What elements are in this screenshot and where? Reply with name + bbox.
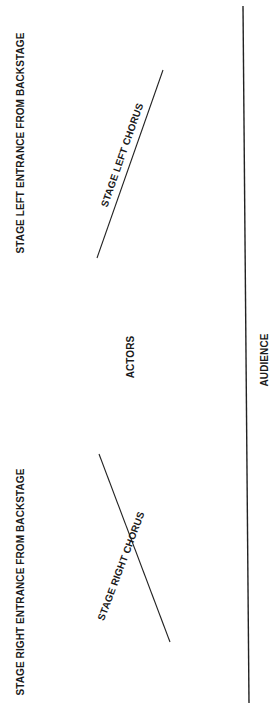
stage-right-chorus-line: [99, 454, 170, 642]
stage-front-line: [243, 6, 249, 703]
stage-right-entrance-label: STAGE RIGHT ENTRANCE FROM BACKSTAGE: [15, 468, 26, 695]
stage-left-entrance-label: STAGE LEFT ENTRANCE FROM BACKSTAGE: [15, 33, 26, 254]
stage-diagram: STAGE LEFT ENTRANCE FROM BACKSTAGE STAGE…: [0, 0, 271, 708]
audience-label: AUDIENCE: [259, 333, 270, 386]
stage-left-chorus-line: [97, 70, 163, 258]
actors-label: ACTORS: [125, 336, 136, 379]
